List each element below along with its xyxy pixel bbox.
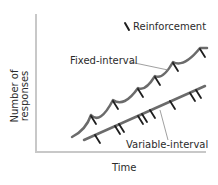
variable-interval-line: [84, 86, 205, 140]
legend-label: Reinforcement: [133, 22, 206, 32]
variable-interval-label: Variable-interval: [126, 140, 208, 150]
x-axis-label: Time: [112, 163, 136, 173]
reinforcement-legend-icon: [125, 23, 129, 30]
fixed-interval-label: Fixed-interval: [70, 56, 138, 66]
y-axis-label: Number of responses: [10, 46, 30, 146]
variable-reinforcement-ticks: [95, 90, 201, 143]
variable-leader-line: [160, 110, 168, 140]
